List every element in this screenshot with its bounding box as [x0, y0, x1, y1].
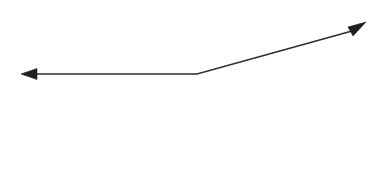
diagram-canvas — [0, 0, 382, 183]
arrow-diagram — [0, 0, 382, 183]
canvas-background — [0, 0, 382, 183]
